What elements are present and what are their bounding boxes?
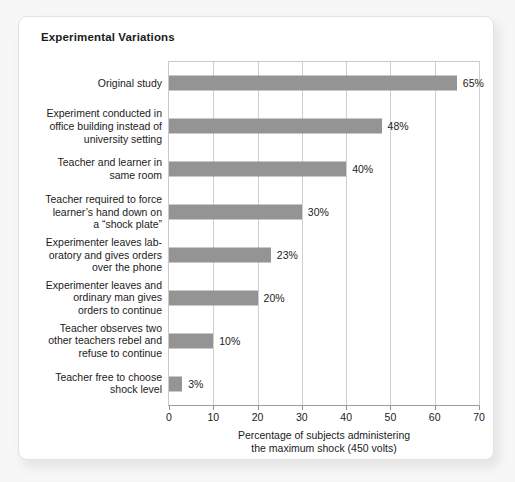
bar-row: Teacher required to forcelearner’s hand … [169,191,479,234]
bar-value-label: 10% [213,335,240,347]
x-tick-label: 70 [473,411,485,423]
bar-value-label: 20% [258,292,285,304]
x-tick [169,406,170,410]
bar [169,290,258,305]
x-tick [479,406,480,410]
chart-page: Experimental Variations Original study65… [0,0,515,482]
bar-value-label: 23% [271,249,298,261]
category-label: Experiment conducted inoffice building i… [12,107,162,145]
bar [169,76,457,91]
x-tick [390,406,391,410]
bar-rows: Original study65%Experiment conducted in… [169,62,479,405]
category-label: Teacher required to forcelearner’s hand … [12,193,162,231]
category-label: Teacher free to chooseshock level [12,371,162,396]
x-tick-label: 60 [429,411,441,423]
x-axis-title: Percentage of subjects administeringthe … [168,429,480,454]
bar-row: Teacher free to chooseshock level3% [169,362,479,405]
x-tick [302,406,303,410]
bar [169,247,271,262]
bar-row: Experiment conducted inoffice building i… [169,105,479,148]
bar-value-label: 30% [302,206,329,218]
category-label: Experimenter leaves lab-oratory and give… [12,236,162,274]
plot-area: Original study65%Experiment conducted in… [168,61,480,406]
bar-row: Teacher observes twoother teachers rebel… [169,319,479,362]
x-tick-label: 0 [166,411,172,423]
x-tick-label: 10 [207,411,219,423]
category-label: Experimenter leaves andordinary man give… [12,279,162,317]
chart-card: Experimental Variations Original study65… [18,16,494,460]
x-tick-label: 30 [296,411,308,423]
bar-value-label: 65% [457,77,484,89]
x-tick [435,406,436,410]
bar-row: Experimenter leaves lab-oratory and give… [169,234,479,277]
x-tick [346,406,347,410]
bar-value-label: 40% [346,163,373,175]
x-tick [213,406,214,410]
bar [169,205,302,220]
bar [169,333,213,348]
bar-row: Original study65% [169,62,479,105]
bar-row: Experimenter leaves andordinary man give… [169,276,479,319]
bar-value-label: 48% [382,120,409,132]
x-tick-label: 50 [385,411,397,423]
category-label: Original study [12,77,162,90]
x-tick [258,406,259,410]
category-label: Teacher observes twoother teachers rebel… [12,322,162,360]
page-title: Experimental Variations [41,31,175,43]
x-axis: 010203040506070 [168,406,480,424]
bar-value-label: 3% [182,378,203,390]
bar-row: Teacher and learner insame room40% [169,148,479,191]
x-tick-label: 20 [252,411,264,423]
gridline [479,62,480,405]
x-tick-label: 40 [340,411,352,423]
bar [169,376,182,391]
category-label: Teacher and learner insame room [12,157,162,182]
bar [169,119,382,134]
bar [169,162,346,177]
